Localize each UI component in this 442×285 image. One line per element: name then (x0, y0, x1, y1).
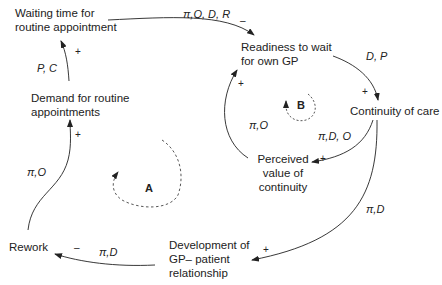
node-development-line2: GP– patient (169, 252, 250, 266)
node-readiness-line2: for own GP (241, 54, 332, 68)
node-demand: Demand for routine appointments (31, 91, 129, 119)
edge-sign-perceived-readiness: + (238, 79, 244, 89)
node-rework: Rework (9, 240, 48, 254)
node-continuity: Continuity of care (350, 104, 440, 118)
loop-a-label: A (145, 182, 153, 194)
node-development: Development of GP– patient relationship (169, 238, 250, 280)
loop-a-indicator (113, 140, 181, 207)
edge-sign-rework-demand: + (75, 130, 81, 140)
edge-sign-waiting-readiness: – (240, 16, 246, 26)
edge-label-continuity-development: π,D (366, 203, 384, 215)
edge-sign-continuity-development: + (263, 245, 269, 255)
node-demand-line1: Demand for routine (31, 91, 129, 105)
edge-perceived-to-readiness (225, 70, 248, 158)
node-perceived-line2: value of (247, 166, 319, 180)
node-development-line3: relationship (169, 266, 250, 280)
edge-sign-development-rework: – (74, 243, 80, 253)
edge-sign-readiness-continuity: + (362, 87, 368, 97)
node-readiness: Readiness to wait for own GP (241, 40, 332, 68)
edge-label-perceived-readiness: π,O (249, 119, 268, 131)
edge-label-demand-waiting: P, C (37, 62, 57, 74)
node-readiness-line1: Readiness to wait (241, 40, 332, 54)
loop-b-label: B (297, 99, 305, 111)
edge-sign-continuity-perceived: + (320, 154, 326, 164)
edge-label-rework-demand: π,O (27, 166, 46, 178)
node-development-line1: Development of (169, 238, 250, 252)
edge-waiting-to-readiness (108, 18, 254, 35)
node-waiting-time-line2: routine appointment (15, 20, 117, 34)
edge-readiness-to-continuity (333, 56, 378, 100)
node-perceived-line1: Perceived (247, 152, 319, 166)
edge-sign-demand-waiting: + (75, 47, 81, 57)
node-perceived-value: Perceived value of continuity (247, 152, 319, 194)
node-rework-line1: Rework (9, 240, 48, 254)
node-continuity-line1: Continuity of care (350, 104, 440, 118)
edge-label-continuity-perceived: π,D, O (318, 130, 351, 142)
edge-label-readiness-continuity: D, P (366, 50, 387, 62)
edge-label-development-rework: π,D (99, 246, 117, 258)
node-waiting-time-line1: Waiting time for (15, 6, 117, 20)
node-waiting-time: Waiting time for routine appointment (15, 6, 117, 34)
edge-demand-to-waiting (61, 41, 69, 81)
edge-label-waiting-readiness: π,O, D, R (183, 8, 230, 20)
node-demand-line2: appointments (31, 105, 129, 119)
node-perceived-line3: continuity (247, 180, 319, 194)
